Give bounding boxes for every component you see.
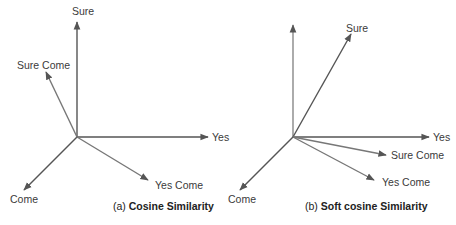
vector-yes-come bbox=[77, 137, 148, 180]
panel-soft-cosine-similarity: SureYesComeSure ComeYes Come bbox=[228, 22, 450, 205]
caption-b: (b) Soft cosine Similarity bbox=[305, 200, 428, 212]
label-come: Come bbox=[10, 193, 38, 205]
panel-cosine-similarity: SureYesComeSure ComeYes Come bbox=[10, 5, 229, 205]
label-sure: Sure bbox=[346, 22, 368, 34]
label-come: Come bbox=[228, 193, 256, 205]
vector-diagram: SureYesComeSure ComeYes Come SureYesCome… bbox=[0, 0, 456, 225]
vector-sure-come bbox=[46, 72, 77, 137]
caption-a-prefix: (a) bbox=[113, 200, 126, 212]
vector-sure bbox=[293, 34, 351, 137]
label-yes: Yes bbox=[212, 131, 229, 143]
caption-b-prefix: (b) bbox=[305, 200, 318, 212]
vector-come bbox=[240, 137, 293, 190]
caption-b-title: Soft cosine Similarity bbox=[321, 200, 428, 212]
caption-a: (a) Cosine Similarity bbox=[113, 200, 214, 212]
label-yes: Yes bbox=[433, 131, 450, 143]
label-yes-come: Yes Come bbox=[382, 176, 430, 188]
label-sure-come: Sure Come bbox=[391, 149, 444, 161]
vector-sure-come bbox=[293, 137, 386, 155]
label-sure: Sure bbox=[72, 5, 94, 17]
caption-a-title: Cosine Similarity bbox=[129, 200, 214, 212]
vector-yes-come bbox=[293, 137, 374, 180]
label-yes-come: Yes Come bbox=[155, 179, 203, 191]
label-sure-come: Sure Come bbox=[17, 59, 70, 71]
vector-come bbox=[24, 137, 77, 190]
